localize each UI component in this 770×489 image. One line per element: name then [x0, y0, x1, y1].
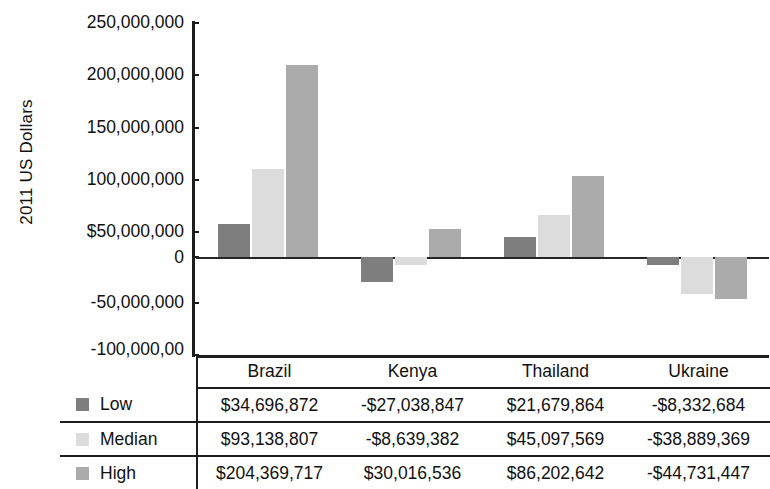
bar-group-thailand [504, 22, 604, 356]
bar-low-thailand [504, 237, 536, 257]
bar-median-kenya [395, 257, 427, 265]
cell-low-brazil: $34,696,872 [197, 388, 341, 422]
bar-group-kenya [361, 22, 461, 356]
data-table: Brazil Kenya Thailand Ukraine Low $34,69… [60, 355, 769, 487]
bar-high-thailand [572, 176, 604, 257]
bar-high-kenya [429, 229, 461, 257]
plot-area [196, 22, 769, 356]
bar-median-brazil [252, 169, 284, 257]
y-tick-label: 100,000,000 [24, 171, 184, 189]
cell-high-brazil: $204,369,717 [197, 456, 341, 489]
cell-low-kenya: -$27,038,847 [341, 388, 484, 422]
bar-low-kenya [361, 257, 393, 282]
y-axis-line [192, 21, 195, 357]
bar-low-ukraine [647, 257, 679, 265]
y-tick-label: $50,000,000 [24, 223, 184, 241]
cell-median-kenya: -$8,639,382 [341, 422, 484, 456]
cell-median-brazil: $93,138,807 [197, 422, 341, 456]
bar-group-brazil [218, 22, 318, 356]
cell-low-thailand: $21,679,864 [484, 388, 627, 422]
cell-high-ukraine: -$44,731,447 [627, 456, 770, 489]
high-swatch-icon [76, 467, 89, 480]
y-tick-label: 250,000,000 [24, 14, 184, 32]
cell-median-ukraine: -$38,889,369 [627, 422, 770, 456]
y-tick-label: -50,000,000 [24, 294, 184, 312]
y-tick-label: 200,000,000 [24, 66, 184, 84]
low-swatch-icon [76, 398, 89, 411]
cell-median-thailand: $45,097,569 [484, 422, 627, 456]
bar-low-brazil [218, 224, 250, 257]
legend-label-median: Median [100, 429, 157, 450]
y-tick-label: 0 [24, 249, 184, 267]
table-corner-cell [60, 355, 197, 388]
legend-item-low: Low [60, 388, 197, 422]
table-row: Low $34,696,872 -$27,038,847 $21,679,864… [60, 388, 770, 422]
cell-high-kenya: $30,016,536 [341, 456, 484, 489]
table-header-row: Brazil Kenya Thailand Ukraine [60, 355, 770, 388]
cell-low-ukraine: -$8,332,684 [627, 388, 770, 422]
bar-median-thailand [538, 215, 570, 257]
legend-item-median: Median [60, 422, 197, 456]
table-row: Median $93,138,807 -$8,639,382 $45,097,5… [60, 422, 770, 456]
legend-label-high: High [100, 463, 136, 484]
bar-high-brazil [286, 65, 318, 257]
column-header-thailand: Thailand [484, 355, 627, 388]
legend-label-low: Low [100, 394, 132, 415]
column-header-brazil: Brazil [197, 355, 341, 388]
legend-item-high: High [60, 456, 197, 489]
table-row: High $204,369,717 $30,016,536 $86,202,64… [60, 456, 770, 489]
bar-high-ukraine [715, 257, 747, 299]
column-header-ukraine: Ukraine [627, 355, 770, 388]
bar-group-ukraine [647, 22, 747, 356]
bar-median-ukraine [681, 257, 713, 294]
median-swatch-icon [76, 433, 89, 446]
cell-high-thailand: $86,202,642 [484, 456, 627, 489]
column-header-kenya: Kenya [341, 355, 484, 388]
y-tick-label: 150,000,000 [24, 119, 184, 137]
